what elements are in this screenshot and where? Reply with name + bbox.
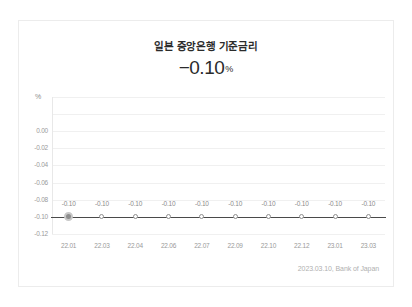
data-point-marker[interactable] [133, 214, 138, 219]
data-point-marker[interactable] [199, 214, 204, 219]
x-axis-tick-label: 22.10 [261, 242, 276, 249]
x-axis-tick-label: 22.06 [161, 242, 176, 249]
data-point-label: -0.10 [361, 200, 375, 207]
x-axis-tick-label: 22.04 [128, 242, 143, 249]
data-point-marker[interactable] [333, 214, 338, 219]
y-axis-tick-label: -0.08 [24, 196, 48, 203]
data-point-label: -0.10 [295, 200, 309, 207]
plot-area: % 0.00-0.02-0.04-0.06-0.08-0.10-0.12 -0.… [19, 21, 395, 288]
data-point-marker[interactable] [266, 214, 271, 219]
data-point-marker[interactable] [366, 214, 371, 219]
y-axis-tick-label: 0.00 [24, 127, 48, 134]
gridline [52, 165, 385, 166]
data-point-label: -0.10 [95, 200, 109, 207]
data-point-label: -0.10 [128, 200, 142, 207]
source-attribution: 2023.03.10, Bank of Japan [298, 265, 379, 272]
gridline [52, 148, 385, 149]
x-axis-tick-label: 23.03 [361, 242, 376, 249]
x-axis-tick-label: 22.07 [194, 242, 209, 249]
y-axis-line [52, 97, 53, 234]
data-point-label: -0.10 [62, 200, 76, 207]
data-point-label: -0.10 [328, 200, 342, 207]
gridline [52, 183, 385, 184]
data-point-label: -0.10 [228, 200, 242, 207]
data-point-label: -0.10 [162, 200, 176, 207]
gridline [52, 114, 385, 115]
chart-card: 일본 중앙은행 기준금리 −0.10% % 0.00-0.02-0.04-0.0… [18, 20, 394, 287]
data-point-label: -0.10 [262, 200, 276, 207]
x-axis-tick-label: 22.03 [94, 242, 109, 249]
y-axis-tick-label: -0.06 [24, 179, 48, 186]
gridline [52, 234, 385, 235]
x-axis-tick-label: 22.09 [228, 242, 243, 249]
y-axis-tick-label: -0.02 [24, 144, 48, 151]
y-axis-tick-label: -0.04 [24, 161, 48, 168]
data-point-marker[interactable] [233, 214, 238, 219]
data-point-marker[interactable] [99, 214, 104, 219]
data-point-marker-highlighted[interactable] [64, 212, 73, 221]
data-point-marker[interactable] [166, 214, 171, 219]
gridline [52, 97, 385, 98]
x-axis-tick-label: 22.12 [294, 242, 309, 249]
data-point-label: -0.10 [195, 200, 209, 207]
x-axis-tick-label: 23.01 [327, 242, 342, 249]
y-axis-unit-label: % [35, 93, 41, 100]
data-point-marker[interactable] [299, 214, 304, 219]
x-axis-tick-label: 22.01 [61, 242, 76, 249]
y-axis-tick-label: -0.12 [24, 230, 48, 237]
gridline [52, 131, 385, 132]
y-axis-tick-label: -0.10 [24, 213, 48, 220]
